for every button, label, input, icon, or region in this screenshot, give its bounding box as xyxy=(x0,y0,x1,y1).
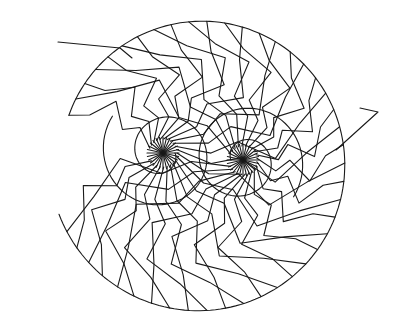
spiral-shell-drawing xyxy=(0,0,396,323)
